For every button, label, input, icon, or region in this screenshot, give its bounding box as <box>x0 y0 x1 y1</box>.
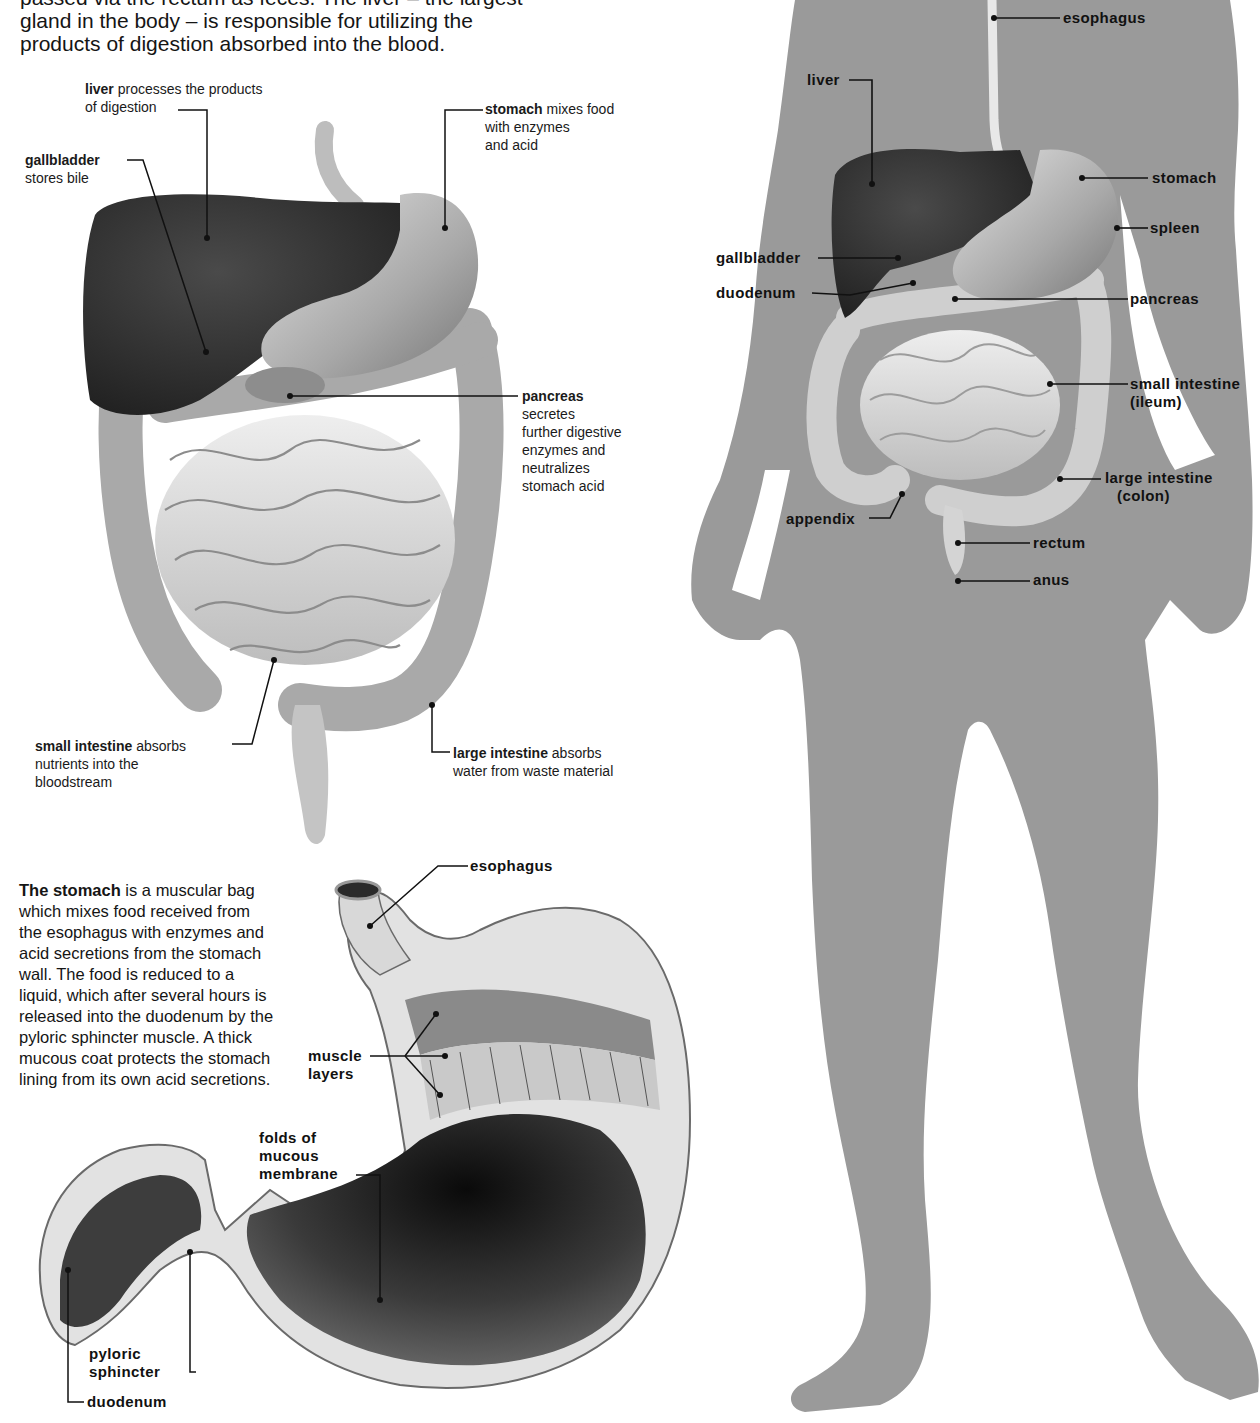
rectum-shape <box>292 705 329 844</box>
body-label-pancreas: pancreas <box>1130 290 1199 308</box>
cutaway-label-folds-line-1: folds of <box>259 1129 338 1147</box>
body-label-gallbladder: gallbladder <box>716 249 800 267</box>
label-pancreas-desc-2: further digestive <box>522 423 622 441</box>
label-small-intestine-desc-3: bloodstream <box>35 773 186 791</box>
cutaway-label-duodenum: duodenum <box>87 1393 167 1411</box>
label-stomach-term: stomach <box>485 101 543 117</box>
cutaway-label-muscle-line-1: muscle <box>308 1047 362 1065</box>
body-label-rectum: rectum <box>1033 534 1085 552</box>
cutaway-label-pyloric-sphincter: pyloric sphincter <box>89 1345 160 1381</box>
body-label-small-intestine-sub: (ileum) <box>1130 393 1240 411</box>
cutaway-label-muscle-layers: muscle layers <box>308 1047 362 1083</box>
label-pancreas-desc-1: secretes <box>522 405 622 423</box>
label-stomach-desc-3: and acid <box>485 136 614 154</box>
body-label-small-intestine-term: small intestine <box>1130 375 1240 393</box>
stomach-description: The stomach is a muscular bag which mixe… <box>19 880 274 1090</box>
illustration-layer <box>0 0 1260 1423</box>
cutaway-label-muscle-line-2: layers <box>308 1065 362 1083</box>
label-pancreas-desc-5: stomach acid <box>522 477 622 495</box>
label-pancreas-desc-3: enzymes and <box>522 441 622 459</box>
label-large-intestine-desc-1: absorbs <box>552 745 602 761</box>
label-small-intestine-desc-1: absorbs <box>136 738 186 754</box>
label-small-intestine: small intestine absorbs nutrients into t… <box>35 737 186 791</box>
label-gallbladder-term: gallbladder <box>25 152 100 168</box>
label-pancreas-desc-4: neutralizes <box>522 459 622 477</box>
label-liver-desc-2: of digestion <box>85 98 262 116</box>
stomach-description-bold: The stomach <box>19 881 121 899</box>
label-liver: liver processes the products of digestio… <box>85 80 262 116</box>
cutaway-label-folds: folds of mucous membrane <box>259 1129 338 1183</box>
esophagus-shape <box>324 130 355 205</box>
body-label-spleen: spleen <box>1150 219 1200 237</box>
label-pancreas: pancreas secretes further digestive enzy… <box>522 387 622 495</box>
label-stomach-desc-2: with enzymes <box>485 118 614 136</box>
label-liver-term: liver <box>85 81 114 97</box>
pancreas-shape <box>245 367 325 403</box>
body-label-stomach: stomach <box>1152 169 1217 187</box>
label-small-intestine-term: small intestine <box>35 738 132 754</box>
label-large-intestine-term: large intestine <box>453 745 548 761</box>
body-label-small-intestine: small intestine (ileum) <box>1130 375 1240 411</box>
body-label-esophagus: esophagus <box>1063 9 1146 27</box>
label-gallbladder: gallbladder stores bile <box>25 151 100 187</box>
stomach-description-text: is a muscular bag which mixes food recei… <box>19 881 273 1088</box>
label-large-intestine: large intestine absorbs water from waste… <box>453 744 613 780</box>
cutaway-label-pyloric-line-1: pyloric <box>89 1345 160 1363</box>
label-liver-desc-1: processes the products <box>118 81 263 97</box>
body-label-large-intestine-term: large intestine <box>1105 469 1213 487</box>
cutaway-label-folds-line-3: membrane <box>259 1165 338 1183</box>
label-small-intestine-desc-2: nutrients into the <box>35 755 186 773</box>
body-label-duodenum: duodenum <box>716 284 796 302</box>
esophagus-opening <box>336 881 380 899</box>
body-label-large-intestine-sub: (colon) <box>1105 487 1213 505</box>
cutaway-label-pyloric-line-2: sphincter <box>89 1363 160 1381</box>
label-stomach-desc-1: mixes food <box>546 101 614 117</box>
body-small-intestine-shape <box>860 330 1060 480</box>
body-label-appendix: appendix <box>786 510 855 528</box>
small-intestine-shape <box>155 415 455 665</box>
cutaway-label-folds-line-2: mucous <box>259 1147 338 1165</box>
label-stomach: stomach mixes food with enzymes and acid <box>485 100 614 154</box>
body-label-large-intestine: large intestine (colon) <box>1105 469 1213 505</box>
label-gallbladder-desc: stores bile <box>25 169 100 187</box>
label-pancreas-term: pancreas <box>522 388 583 404</box>
body-label-liver: liver <box>807 71 840 89</box>
label-large-intestine-desc-2: water from waste material <box>453 762 613 780</box>
body-label-anus: anus <box>1033 571 1070 589</box>
cutaway-label-esophagus: esophagus <box>470 857 553 875</box>
